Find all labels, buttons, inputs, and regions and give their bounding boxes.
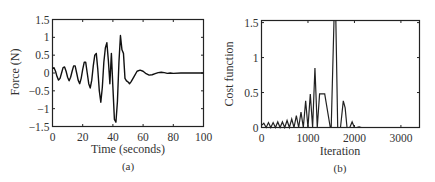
chart-a-ylabel: Force (N) [8, 49, 22, 96]
y-tick-label: 1 [253, 52, 259, 64]
y-tick-label: 0.5 [244, 87, 259, 99]
x-tick-label: 100 [195, 131, 213, 143]
y-tick-label: 0.5 [35, 49, 50, 61]
chart-b-cost-line [262, 21, 420, 128]
y-tick-label: 1.5 [244, 17, 259, 29]
figure: −1.5−1−0.500.511.5 020406080100 Time (se… [0, 0, 435, 182]
chart-b-plot-area [262, 21, 420, 128]
y-tick-label: 1.5 [35, 14, 50, 26]
x-tick-label: 2000 [343, 132, 366, 144]
chart-a: −1.5−1−0.500.511.5 020406080100 Time (se… [8, 14, 212, 174]
chart-b-xlabel: Iteration [320, 144, 361, 158]
x-tick-label: 80 [168, 131, 180, 143]
x-tick-label: 60 [137, 131, 149, 143]
y-tick-label: 1 [44, 31, 50, 43]
y-tick-label: −1.5 [29, 121, 50, 133]
chart-b: 00.511.5 0100020003000 Iteration Cost fu… [222, 17, 420, 175]
y-tick-label: −0.5 [29, 85, 50, 97]
x-tick-label: 0 [259, 132, 265, 144]
chart-b-caption: (b) [334, 162, 347, 175]
x-tick-label: 3000 [389, 132, 412, 144]
chart-b-ylabel: Cost function [222, 42, 236, 107]
chart-a-force-line [53, 36, 204, 123]
y-tick-label: 0 [44, 67, 50, 79]
x-tick-label: 20 [77, 131, 89, 143]
x-tick-label: 40 [107, 131, 119, 143]
chart-a-caption: (a) [122, 160, 135, 173]
x-tick-label: 1000 [296, 132, 319, 144]
y-tick-label: −1 [37, 103, 49, 115]
chart-a-xlabel: Time (seconds) [91, 142, 165, 156]
x-tick-label: 0 [50, 131, 56, 143]
